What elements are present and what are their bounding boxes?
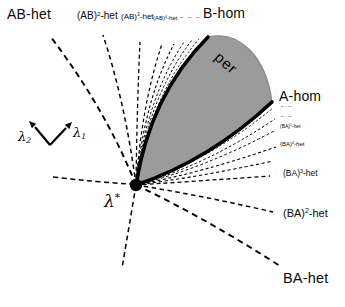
label-text: (AB) (121, 12, 137, 21)
label-ba3-het: (BA)3-het (283, 169, 318, 178)
label-a-hom: A-hom (279, 89, 321, 103)
t-point-dot (130, 179, 142, 191)
lambda-axes (29, 121, 72, 145)
label-text: (AB) (153, 15, 165, 21)
label-ba4-het: (BA)4-het (280, 141, 304, 147)
label-ba5-het: (BA)5-het (280, 124, 300, 129)
label-text: -het (100, 10, 117, 21)
label-text: (BA) (283, 168, 300, 178)
label-ab3-het: (AB)3-het (121, 13, 154, 21)
lambda1-sub: 1 (81, 132, 86, 141)
figure-canvas: AB-het (AB)2-het (AB)3-het (AB)4-het – –… (0, 0, 345, 307)
lambda-glyph: λ (73, 125, 81, 140)
a-hom-dashed-continuation (53, 177, 131, 184)
label-right-ellipsis-2: –·– (281, 114, 293, 119)
label-b-hom: B-hom (203, 6, 245, 20)
label-text: -het (292, 123, 301, 129)
label-text: (BA) (283, 207, 305, 219)
label-ab4-het: (AB)4-het (153, 15, 177, 21)
diagram-svg (0, 0, 345, 307)
label-text: (BA) (280, 141, 292, 147)
label-text: -het (303, 168, 318, 178)
label-text: (AB) (77, 10, 97, 21)
lambda2-sub: 2 (26, 136, 31, 145)
label-text: -het (140, 12, 154, 21)
label-ba-het: BA-het (283, 271, 329, 286)
lambda2-arrow (35, 127, 50, 145)
label-lambda2: λ2 (18, 130, 31, 145)
label-text: -het (294, 141, 304, 147)
label-right-ellipsis-1: –·– (281, 104, 293, 109)
label-text: -het (167, 15, 177, 21)
label-ab2-het: (AB)2-het (77, 11, 118, 21)
lambda-glyph: λ (104, 191, 115, 211)
label-lambda-star: λ* (104, 192, 120, 210)
label-ba2-het: (BA)2-het (283, 208, 328, 219)
ba2-het-curve (136, 185, 273, 212)
lambda-glyph: λ (18, 129, 26, 144)
label-ab-het: AB-het (7, 7, 51, 21)
label-text: -het (309, 207, 328, 219)
ba-het-curve (136, 185, 280, 266)
label-text: (BA) (280, 123, 290, 129)
b-hom-dashed-continuation (122, 185, 136, 268)
ab2-het-curve (103, 35, 136, 185)
label-lambda1: λ1 (73, 126, 86, 141)
lambda1-arrow (50, 128, 66, 145)
lambda-star-sup: * (115, 191, 120, 203)
